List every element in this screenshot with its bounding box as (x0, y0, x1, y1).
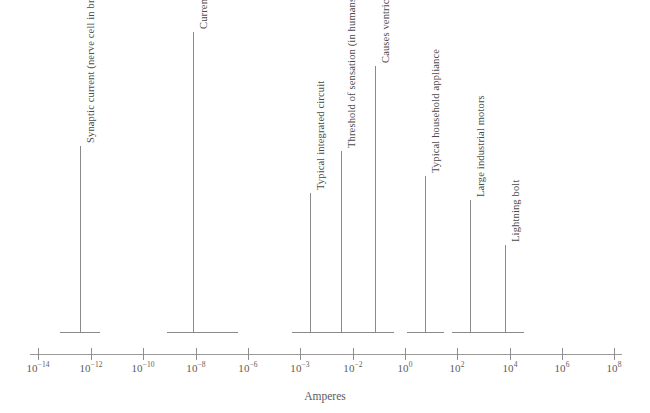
tick-mantissa: 10 (290, 362, 301, 374)
tick-exponent: −3 (302, 360, 310, 369)
annotation-marker-base (357, 332, 394, 333)
tick-exponent: −6 (250, 360, 258, 369)
annotation-marker-stem (341, 151, 342, 332)
axis-tick-label: 100 (397, 362, 412, 374)
axis-tick-label: 10−6 (238, 362, 257, 374)
axis-tick-label: 10−8 (186, 362, 205, 374)
annotation-marker-stem (310, 193, 311, 332)
annotation-marker-stem (375, 66, 376, 332)
annotation-label-household-appliance: Typical household appliance (430, 49, 441, 173)
annotation-marker-stem (425, 176, 426, 332)
axis-tick (510, 348, 511, 360)
annotation-marker-base (452, 332, 489, 333)
current-magnitude-scale-figure: Synaptic current (nerve cell in brain)Cu… (0, 0, 650, 413)
tick-mantissa: 10 (238, 362, 249, 374)
axis-tick-label: 104 (502, 362, 517, 374)
tick-mantissa: 10 (186, 362, 197, 374)
axis-tick-label: 10−10 (131, 362, 154, 374)
tick-exponent: −8 (198, 360, 206, 369)
axis-tick (143, 348, 144, 360)
annotation-label-memory-cell-current: Current of each memory cell in integrate… (198, 0, 209, 29)
tick-exponent: −10 (143, 360, 155, 369)
tick-mantissa: 10 (554, 362, 565, 374)
tick-exponent: −14 (38, 360, 50, 369)
axis-tick (38, 348, 39, 360)
axis-tick-label: 10−12 (79, 362, 102, 374)
tick-mantissa: 10 (449, 362, 460, 374)
axis-tick-label: 10−3 (290, 362, 309, 374)
axis-tick-label: 10−14 (26, 362, 49, 374)
axis-tick (353, 348, 354, 360)
axis-tick (300, 348, 301, 360)
annotation-marker-stem (470, 200, 471, 332)
annotation-marker-stem (505, 245, 506, 332)
tick-exponent: −2 (355, 360, 363, 369)
annotation-marker-base (60, 332, 100, 333)
axis-tick (91, 348, 92, 360)
tick-mantissa: 10 (343, 362, 354, 374)
axis-tick (457, 348, 458, 360)
tick-exponent: 6 (566, 360, 570, 369)
tick-exponent: 0 (409, 360, 413, 369)
axis-title: Amperes (0, 390, 650, 402)
axis-tick-label: 10−2 (343, 362, 362, 374)
axis-tick-label: 108 (606, 362, 621, 374)
tick-exponent: 8 (618, 360, 622, 369)
annotation-marker-base (167, 332, 238, 333)
tick-exponent: 4 (514, 360, 518, 369)
annotation-label-synaptic-current: Synaptic current (nerve cell in brain) (85, 0, 96, 143)
annotation-marker-stem (193, 32, 194, 332)
axis-tick (614, 348, 615, 360)
tick-mantissa: 10 (397, 362, 408, 374)
axis-tick-label: 102 (449, 362, 464, 374)
annotation-marker-base (323, 332, 360, 333)
tick-mantissa: 10 (79, 362, 90, 374)
tick-mantissa: 10 (131, 362, 142, 374)
annotation-label-lightning-bolt: Lightning bolt (510, 180, 521, 242)
annotation-marker-base (487, 332, 524, 333)
annotation-label-industrial-motors: Large industrial motors (475, 95, 486, 197)
axis-tick (196, 348, 197, 360)
tick-mantissa: 10 (606, 362, 617, 374)
axis-tick (405, 348, 406, 360)
annotation-label-typical-integrated-circuit: Typical integrated circuit (315, 81, 326, 190)
axis-line (30, 354, 622, 355)
tick-exponent: 2 (461, 360, 465, 369)
axis-tick (248, 348, 249, 360)
annotation-marker-stem (80, 146, 81, 332)
annotation-label-threshold-of-sensation: Threshold of sensation (in humans) (346, 0, 357, 148)
tick-mantissa: 10 (26, 362, 37, 374)
tick-exponent: −12 (91, 360, 103, 369)
annotation-marker-base (407, 332, 444, 333)
axis-tick-label: 106 (554, 362, 569, 374)
axis-tick (562, 348, 563, 360)
annotation-label-ventricular-fibrillation: Causes ventricular fibrillation (fatal t… (380, 0, 391, 63)
tick-mantissa: 10 (502, 362, 513, 374)
